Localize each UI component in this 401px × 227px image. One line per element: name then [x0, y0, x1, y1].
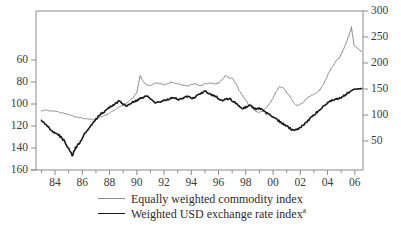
legend-label-usd-superscript: a — [303, 206, 306, 215]
chart-series — [41, 27, 361, 156]
x-tick-label: 94 — [177, 177, 205, 189]
x-tick-label: 96 — [205, 177, 233, 189]
legend-label-commodity: Equally weighted commodity index — [131, 193, 303, 205]
x-tick-label: 86 — [68, 177, 96, 189]
y-right-tick-label: 300 — [371, 5, 401, 17]
x-tick-label: 92 — [150, 177, 178, 189]
plot-frame — [31, 11, 363, 170]
y-left-tick-label: 140 — [0, 142, 28, 154]
legend-label-usd: Weighted USD exchange rate indexa — [131, 207, 306, 220]
x-tick-label: 06 — [341, 177, 369, 189]
y-left-tick-label: 60 — [0, 54, 28, 66]
y-left-tick-label: 80 — [0, 76, 28, 88]
x-tick-label: 98 — [232, 177, 260, 189]
y-left-tick-label: 100 — [0, 98, 28, 110]
y-right-tick-label: 200 — [371, 57, 401, 69]
chart-figure: 8486889092949698000204066080100120140160… — [0, 0, 401, 227]
y-right-tick-label: 150 — [371, 83, 401, 95]
x-tick-label: 90 — [123, 177, 151, 189]
x-tick-label: 88 — [96, 177, 124, 189]
legend-swatch-commodity-icon — [98, 198, 125, 199]
y-left-tick-label: 160 — [0, 164, 28, 176]
x-tick-label: 00 — [259, 177, 287, 189]
chart-legend: Equally weighted commodity index Weighte… — [98, 191, 358, 221]
x-tick-label: 04 — [314, 177, 342, 189]
x-tick-label: 84 — [41, 177, 69, 189]
legend-item-commodity: Equally weighted commodity index — [98, 191, 358, 206]
legend-item-usd: Weighted USD exchange rate indexa — [98, 206, 358, 221]
y-left-tick-label: 120 — [0, 120, 28, 132]
y-right-tick-label: 50 — [371, 135, 401, 147]
y-right-tick-label: 250 — [371, 31, 401, 43]
x-tick-label: 02 — [286, 177, 314, 189]
legend-swatch-usd-icon — [98, 213, 125, 214]
y-right-tick-label: 100 — [371, 109, 401, 121]
legend-label-usd-text: Weighted USD exchange rate index — [131, 207, 303, 221]
